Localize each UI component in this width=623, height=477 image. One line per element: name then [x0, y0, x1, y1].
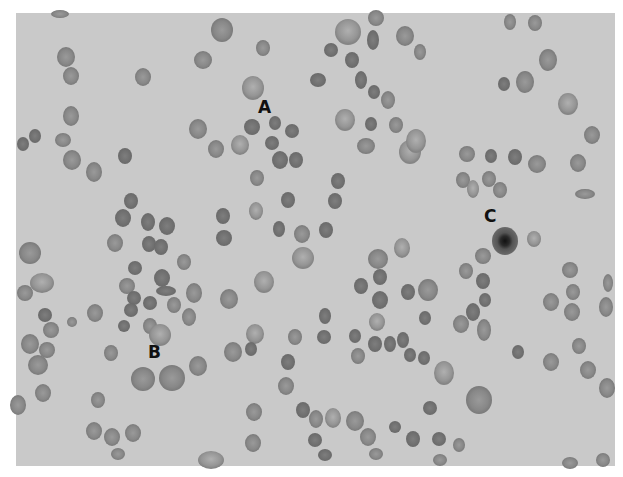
cell-C-target: [492, 227, 518, 255]
blood-smear-micrograph: A B C: [0, 0, 623, 477]
label-A: A: [258, 97, 272, 117]
label-C: C: [484, 206, 496, 226]
label-B: B: [148, 342, 161, 362]
